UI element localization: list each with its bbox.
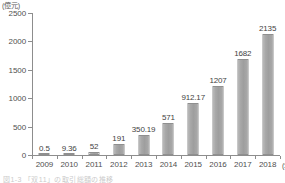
x-tick-label: 2017 <box>234 160 251 169</box>
x-tick <box>106 156 107 159</box>
y-tick-label: 0 <box>22 151 26 160</box>
bar <box>262 34 273 155</box>
x-tick <box>255 156 256 159</box>
bar-value-label: 571 <box>162 113 175 122</box>
bar <box>113 144 124 155</box>
bar <box>237 59 248 155</box>
bar-value-label: 2135 <box>259 24 276 33</box>
x-tick <box>181 156 182 159</box>
bar-chart-figure: (億元) 05001000150020002500 20092010201120… <box>0 0 285 183</box>
x-tick <box>230 156 231 159</box>
figure-caption: 図1-3 「双11」の取引総額の推移 <box>3 174 114 183</box>
bar-value-label: 912.17 <box>181 93 205 102</box>
y-tick-label: 2000 <box>9 37 26 46</box>
x-axis-unit-label: (年) <box>282 160 285 170</box>
x-tick-label: 2018 <box>259 160 276 169</box>
x-tick <box>131 156 132 159</box>
y-tick <box>28 127 32 128</box>
x-tick <box>156 156 157 159</box>
y-tick-label: 500 <box>13 122 26 131</box>
y-tick <box>28 13 32 14</box>
y-tick-label: 2500 <box>9 9 26 18</box>
x-tick-label: 2013 <box>135 160 152 169</box>
bar <box>89 152 100 155</box>
bar-value-label: 0.5 <box>39 144 50 153</box>
y-tick <box>28 70 32 71</box>
x-tick <box>32 156 33 159</box>
bar-value-label: 1207 <box>209 76 226 85</box>
x-tick-label: 2015 <box>184 160 201 169</box>
y-axis-line <box>32 13 33 156</box>
x-tick <box>206 156 207 159</box>
bar-value-label: 350.19 <box>132 125 156 134</box>
x-tick <box>82 156 83 159</box>
x-tick <box>57 156 58 159</box>
y-tick <box>28 98 32 99</box>
bar-value-label: 1682 <box>234 49 251 58</box>
y-tick-label: 1000 <box>9 94 26 103</box>
bar-value-label: 191 <box>112 134 125 143</box>
bar <box>163 123 174 155</box>
x-tick-label: 2011 <box>86 160 103 169</box>
bar <box>188 103 199 155</box>
y-tick <box>28 41 32 42</box>
bar-value-label: 9.36 <box>62 144 77 153</box>
x-tick-label: 2010 <box>60 160 77 169</box>
x-tick <box>280 156 281 159</box>
plot-area: 05001000150020002500 2009201020112012201… <box>32 13 280 156</box>
bar <box>138 135 149 155</box>
x-tick-label: 2016 <box>209 160 226 169</box>
x-tick-label: 2012 <box>110 160 127 169</box>
y-tick-label: 1500 <box>9 65 26 74</box>
bar-value-label: 52 <box>90 142 99 151</box>
x-tick-label: 2014 <box>160 160 177 169</box>
bar <box>213 86 224 155</box>
x-tick-label: 2009 <box>36 160 53 169</box>
